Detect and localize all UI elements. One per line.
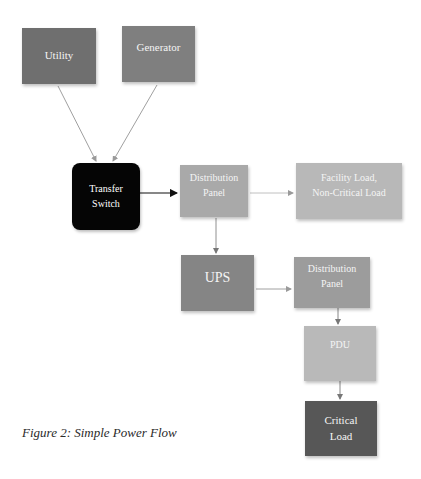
- figure-caption: Figure 2: Simple Power Flow: [22, 425, 177, 441]
- node-transfer-switch-label-2: Switch: [89, 197, 123, 212]
- node-distribution-panel-1-label-1: Distribution: [190, 171, 238, 186]
- node-distribution-panel-1: Distribution Panel: [180, 165, 248, 217]
- node-generator: Generator: [122, 26, 195, 82]
- node-utility-label: Utility: [45, 48, 74, 64]
- node-distribution-panel-2-label-1: Distribution: [308, 262, 356, 277]
- node-facility-load: Facility Load, Non-Critical Load: [296, 163, 402, 219]
- node-critical-load-label-2: Load: [325, 429, 358, 445]
- node-critical-load: Critical Load: [305, 401, 377, 456]
- node-distribution-panel-2-label-2: Panel: [308, 277, 356, 292]
- node-ups: UPS: [181, 255, 254, 311]
- edge-utility-transfer: [58, 86, 96, 161]
- node-pdu-label: PDU: [330, 338, 350, 353]
- node-facility-load-label-2: Non-Critical Load: [312, 186, 386, 201]
- node-facility-load-label-1: Facility Load,: [312, 171, 386, 186]
- node-transfer-switch-label-1: Transfer: [89, 182, 123, 197]
- node-ups-label: UPS: [205, 268, 231, 288]
- node-transfer-switch: Transfer Switch: [72, 163, 140, 230]
- edge-generator-transfer: [113, 85, 157, 161]
- node-distribution-panel-2: Distribution Panel: [294, 257, 370, 308]
- node-distribution-panel-1-label-2: Panel: [190, 186, 238, 201]
- node-pdu: PDU: [304, 326, 376, 381]
- node-generator-label: Generator: [137, 40, 181, 56]
- node-utility: Utility: [22, 28, 96, 84]
- node-critical-load-label-1: Critical: [325, 413, 358, 429]
